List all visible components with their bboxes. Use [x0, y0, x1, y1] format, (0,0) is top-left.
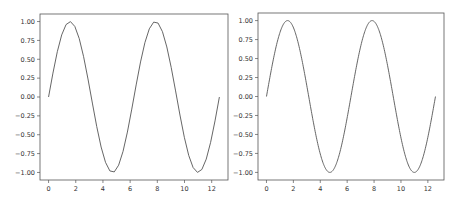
y-tick-label: −1.00	[233, 169, 253, 177]
x-tick-label: 12	[424, 185, 432, 193]
y-tick-label: −1.00	[15, 169, 35, 177]
y-tick-label: 0.00	[239, 93, 253, 101]
y-tick-label: −0.75	[15, 150, 35, 158]
y-tick-label: 0.50	[239, 55, 253, 63]
y-tick-label: −0.25	[233, 112, 253, 120]
y-tick-label: −0.50	[233, 131, 253, 139]
y-tick-label: −0.75	[233, 150, 253, 158]
subplot-left: 0246810121.000.750.500.250.00−0.25−0.50−…	[15, 14, 228, 193]
y-tick-label: 0.75	[239, 36, 253, 44]
y-tick-label: 1.00	[239, 17, 253, 25]
subplot-right: 0246810121.000.750.500.250.00−0.25−0.50−…	[233, 13, 444, 193]
y-tick-label: 1.00	[21, 18, 35, 26]
x-tick-label: 10	[397, 185, 405, 193]
y-tick-label: −0.50	[15, 131, 35, 139]
y-tick-label: 0.25	[21, 74, 35, 82]
y-tick-label: 0.00	[21, 93, 35, 101]
y-tick-label: 0.50	[21, 56, 35, 64]
x-tick-label: 10	[180, 185, 188, 193]
x-tick-label: 6	[345, 185, 349, 193]
y-tick-label: 0.75	[21, 37, 35, 45]
figure: 0246810121.000.750.500.250.00−0.25−0.50−…	[0, 0, 461, 201]
y-tick-label: 0.25	[239, 74, 253, 82]
x-tick-label: 2	[74, 185, 78, 193]
x-tick-label: 12	[208, 185, 216, 193]
x-tick-label: 2	[291, 185, 295, 193]
x-tick-label: 0	[264, 185, 268, 193]
sine-series-line	[266, 21, 435, 173]
x-tick-label: 4	[318, 185, 322, 193]
y-tick-label: −0.25	[15, 112, 35, 120]
x-tick-label: 8	[155, 185, 159, 193]
x-tick-label: 6	[128, 185, 132, 193]
x-tick-label: 0	[46, 185, 50, 193]
x-tick-label: 8	[372, 185, 376, 193]
sine-series-line	[49, 22, 220, 173]
x-tick-label: 4	[101, 185, 105, 193]
